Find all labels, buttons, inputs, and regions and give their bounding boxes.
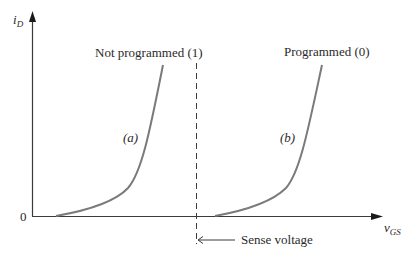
curve-b-label: (b) xyxy=(280,130,295,145)
y-axis-arrow-icon xyxy=(29,11,36,22)
curve-a-annotation: Not programmed (1) xyxy=(95,45,203,60)
x-axis-label: vGS xyxy=(384,220,401,237)
x-axis-arrow-icon xyxy=(371,213,383,220)
curve-a-label: (a) xyxy=(123,130,138,145)
x-axis xyxy=(32,213,383,220)
sense-voltage-label: Sense voltage xyxy=(241,232,313,247)
diagram-canvas: iD vGS 0 Not programmed (1) (a) Programm… xyxy=(0,0,413,256)
curve-b-programmed xyxy=(215,65,322,216)
y-axis-label: iD xyxy=(13,12,24,29)
origin-label: 0 xyxy=(20,209,27,224)
sense-voltage-arrow-icon xyxy=(198,237,235,244)
curve-b-annotation: Programmed (0) xyxy=(284,44,370,59)
curve-a-not-programmed xyxy=(56,65,163,216)
y-axis xyxy=(29,11,36,216)
mosfet-transfer-characteristic-diagram: iD vGS 0 Not programmed (1) (a) Programm… xyxy=(0,0,413,256)
